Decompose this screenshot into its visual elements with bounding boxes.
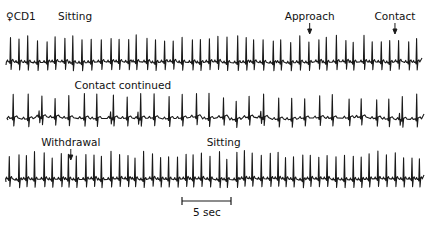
strip-2: Contact continued xyxy=(7,79,424,127)
scale-bar: 5 sec xyxy=(182,197,231,218)
arrow-down-icon xyxy=(69,155,73,160)
annotation-label: Sitting xyxy=(58,10,92,22)
strip-1: SittingApproachContact xyxy=(6,10,422,71)
scale-bar-label: 5 sec xyxy=(193,206,221,218)
annotation-label: Withdrawal xyxy=(41,136,100,148)
ecg-figure: ♀CD1 SittingApproachContact Contact cont… xyxy=(0,0,428,225)
annotation-label: Contact continued xyxy=(75,79,172,91)
annotation-label: Sitting xyxy=(207,136,241,148)
ecg-trace-line xyxy=(7,93,424,127)
arrow-down-icon xyxy=(393,29,397,34)
strip-3: WithdrawalSitting xyxy=(6,136,424,188)
subject-label: ♀CD1 xyxy=(6,10,36,22)
annotation-label: Contact xyxy=(375,10,416,22)
annotation-label: Approach xyxy=(285,10,335,22)
ecg-trace-line xyxy=(6,151,424,188)
arrow-down-icon xyxy=(308,29,312,34)
ecg-trace-line xyxy=(6,35,422,71)
